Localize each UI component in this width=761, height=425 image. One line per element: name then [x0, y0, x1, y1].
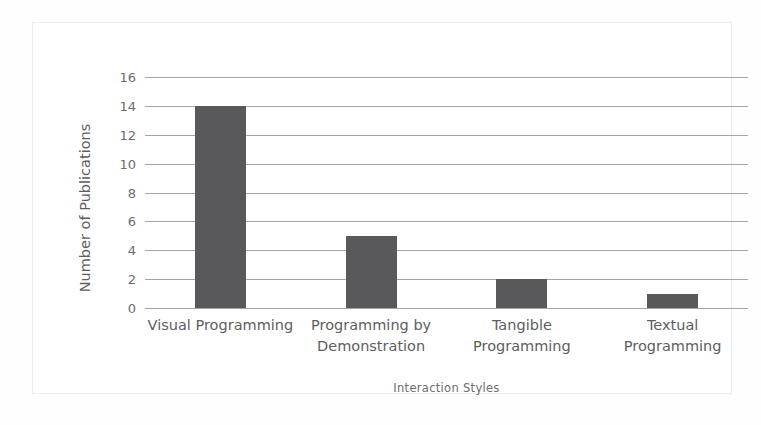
x-category-label-line: Programming: [447, 336, 598, 357]
x-category-label-line: Tangible: [447, 315, 598, 336]
gridline-16: [145, 77, 748, 78]
chart-frame: Number of Publications 0246810121416 Vis…: [32, 22, 732, 394]
x-category-label-line: Textual: [597, 315, 748, 336]
bar[interactable]: [195, 106, 246, 308]
x-category-label: TangibleProgramming: [447, 315, 598, 356]
x-category-label-line: Demonstration: [296, 336, 447, 357]
x-category-label: TextualProgramming: [597, 315, 748, 356]
y-tick-label-2: 2: [128, 273, 136, 286]
y-tick-label-8: 8: [128, 186, 136, 199]
plot-area: 0246810121416: [145, 77, 748, 308]
y-tick-label-0: 0: [128, 302, 136, 315]
x-category-label: Programming byDemonstration: [296, 315, 447, 356]
y-tick-label-14: 14: [119, 99, 136, 112]
x-axis-title: Interaction Styles: [145, 381, 748, 395]
gridline-0: [145, 308, 748, 309]
y-tick-label-16: 16: [119, 71, 136, 84]
bar[interactable]: [647, 294, 698, 308]
x-category-label-line: Programming by: [296, 315, 447, 336]
y-tick-label-10: 10: [119, 157, 136, 170]
y-tick-label-12: 12: [119, 128, 136, 141]
y-tick-label-6: 6: [128, 215, 136, 228]
x-category-label-line: Visual Programming: [145, 315, 296, 336]
bar[interactable]: [346, 236, 397, 308]
y-axis-title: Number of Publications: [77, 88, 93, 328]
y-tick-label-4: 4: [128, 244, 136, 257]
x-category-label-line: Programming: [597, 336, 748, 357]
bar[interactable]: [496, 279, 547, 308]
x-category-label: Visual Programming: [145, 315, 296, 336]
